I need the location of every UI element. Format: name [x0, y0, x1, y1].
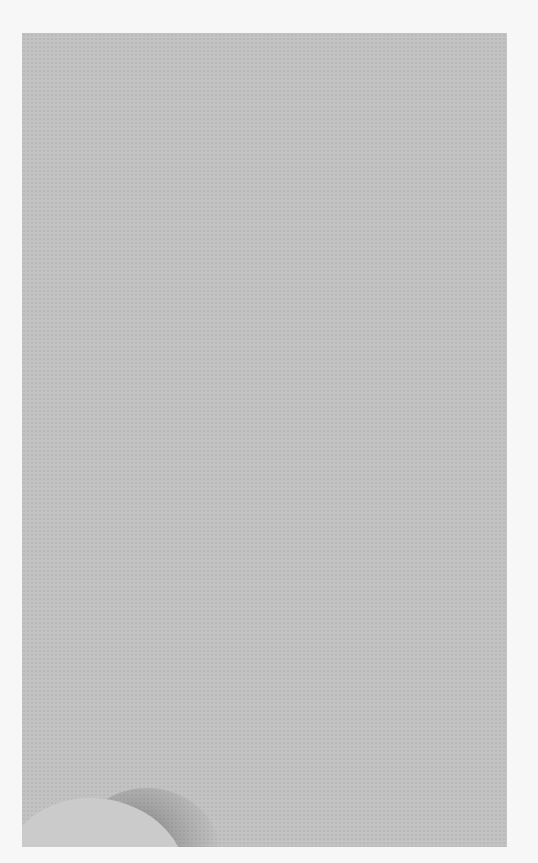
gray-paper-sheet [22, 33, 507, 847]
